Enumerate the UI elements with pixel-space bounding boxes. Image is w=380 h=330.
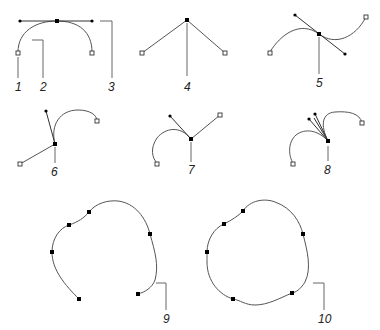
anchor-point <box>136 292 140 296</box>
anchor-point <box>189 137 193 141</box>
anchor-point <box>301 232 305 236</box>
end-point <box>291 162 295 166</box>
anchor-point <box>317 32 321 36</box>
callout-line-9 <box>156 283 166 310</box>
figure-smooth-point: 1 2 3 <box>15 19 115 94</box>
direction-point <box>313 112 316 115</box>
end-point <box>18 162 22 166</box>
callout-label-7: 7 <box>188 163 196 177</box>
curve-segment <box>18 21 92 52</box>
closed-path-curve <box>207 200 309 305</box>
direction-point <box>18 19 21 22</box>
direction-point <box>44 109 47 112</box>
straight-segment <box>191 115 220 139</box>
callout-label-9: 9 <box>163 312 170 326</box>
anchor-point <box>67 223 71 227</box>
figure-closed-path: 10 <box>205 200 332 326</box>
anchor-point <box>55 19 59 23</box>
callout-label-1: 1 <box>15 80 22 94</box>
figure-two-curve-corner: 8 <box>290 112 364 177</box>
callout-label-8: 8 <box>324 163 331 177</box>
end-point <box>95 119 99 123</box>
end-point <box>223 51 227 55</box>
curve-segment <box>323 112 362 141</box>
direction-point <box>343 52 346 55</box>
end-point <box>155 162 159 166</box>
anchor-point <box>87 210 91 214</box>
end-point <box>90 51 94 55</box>
direction-line <box>46 111 55 144</box>
figure-smooth-s-curve: 5 <box>268 13 368 90</box>
end-point <box>360 121 364 125</box>
callout-label-2: 2 <box>39 80 47 94</box>
anchor-point <box>185 18 189 22</box>
callout-label-4: 4 <box>184 80 191 94</box>
direction-point <box>90 19 93 22</box>
bezier-diagram: 1 2 3 4 5 6 <box>0 0 380 330</box>
callout-line-3 <box>100 21 112 78</box>
end-point <box>16 51 20 55</box>
end-point <box>364 15 368 19</box>
direction-point <box>293 13 296 16</box>
straight-segment <box>142 20 187 53</box>
anchor-point <box>77 297 81 301</box>
end-point <box>268 51 272 55</box>
callout-line-2 <box>32 40 43 78</box>
anchor-point <box>326 139 330 143</box>
anchor-point <box>290 291 294 295</box>
anchor-point <box>53 142 57 146</box>
curve-segment <box>152 129 191 163</box>
curve-segment <box>290 131 328 163</box>
callout-label-5: 5 <box>316 76 323 90</box>
anchor-point <box>241 209 245 213</box>
callout-label-10: 10 <box>318 312 332 326</box>
straight-segment <box>20 144 55 164</box>
diagram-canvas: 1 2 3 4 5 6 <box>0 0 380 330</box>
direction-point <box>168 114 171 117</box>
end-point <box>218 113 222 117</box>
direction-point <box>307 117 310 120</box>
end-point <box>140 51 144 55</box>
straight-segment <box>187 20 225 53</box>
callout-label-3: 3 <box>108 80 115 94</box>
figure-straight-to-curve-corner: 7 <box>152 113 222 177</box>
curve-segment <box>54 110 97 144</box>
callout-label-6: 6 <box>51 165 58 179</box>
callout-line-10 <box>313 283 324 310</box>
open-path-curve <box>52 201 157 299</box>
direction-line <box>170 116 191 139</box>
figure-open-path: 9 <box>50 201 170 326</box>
anchor-point <box>222 222 226 226</box>
anchor-point <box>231 297 235 301</box>
anchor-point <box>148 232 152 236</box>
figure-curve-to-straight-corner: 6 <box>18 109 99 179</box>
figure-corner-point: 4 <box>140 18 227 94</box>
anchor-point <box>50 250 54 254</box>
anchor-point <box>205 250 209 254</box>
